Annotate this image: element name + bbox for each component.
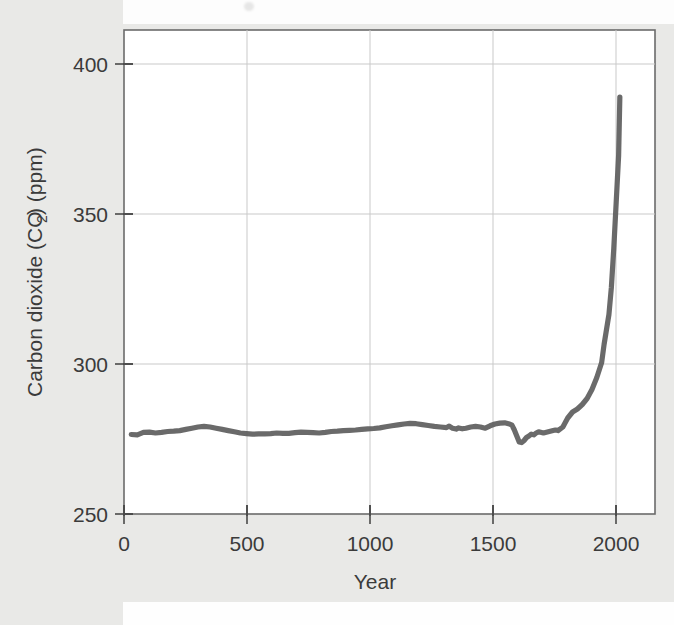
x-tick-label-1500-fg: 1500 [470,532,517,555]
figure-page: 400 350 300 250 0 500 1000 1500 2000 Yea… [0,0,674,625]
y-tick-label-400-fg: 400 [73,53,108,76]
x-tick-label-1000-fg: 1000 [347,532,394,555]
y-axis-title-fg: Carbon dioxide (CO 2 ) (ppm) [23,147,50,397]
x-tick-label-500-fg: 500 [229,532,264,555]
y-axis-title-subscript-fg: 2 [34,215,50,223]
y-tick-label-250-fg: 250 [73,503,108,526]
plot-frame [124,30,655,514]
right-margin-mask [657,24,674,602]
x-tick-label-2000-fg: 2000 [593,532,640,555]
co2-line-chart: 400 350 300 250 0 500 1000 1500 2000 Yea… [0,0,674,625]
y-tick-label-300-fg: 300 [73,353,108,376]
bottom-margin-mask [0,516,674,602]
y-axis-title-tail-fg: ) (ppm) [23,147,46,215]
x-axis-title-fg: Year [354,570,396,593]
y-axis-title-main-fg: Carbon dioxide (CO [23,211,46,397]
y-tick-label-350-fg: 350 [73,203,108,226]
x-tick-label-0-fg: 0 [118,532,130,555]
top-margin-mask [0,24,674,29]
